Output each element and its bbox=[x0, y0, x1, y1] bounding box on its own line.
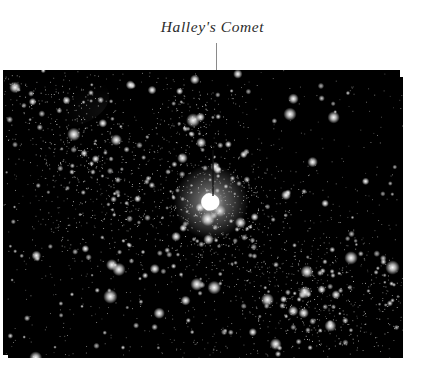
halleys-comet-photo bbox=[3, 70, 403, 358]
photo-caption-label: Halley's Comet bbox=[2, 18, 421, 36]
photo-edge-highlight-bottom-left bbox=[3, 355, 8, 358]
starfield-image bbox=[3, 70, 403, 358]
caption-leader-line bbox=[216, 43, 217, 72]
photo-edge-highlight-top-right bbox=[400, 70, 403, 77]
